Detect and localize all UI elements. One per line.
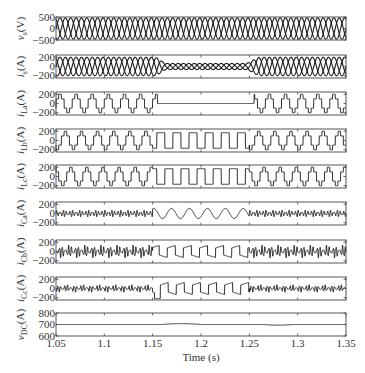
x-tick-label: 1.35 [336, 337, 356, 349]
y-tick-label: 200 [39, 198, 56, 210]
panel-is: −2000200is(A) [14, 51, 346, 81]
y-tick-label: 700 [39, 318, 56, 330]
panel-iLb: −2000200iLb(A) [14, 125, 346, 155]
panel-iCb: −2000200iCb(A) [14, 236, 346, 266]
y-tick-label: 800 [39, 307, 56, 319]
y-axis-label-vs: vs(V) [14, 17, 29, 41]
panel-iCc: −2000200iCc(A) [14, 273, 346, 303]
x-tick-label: 1.3 [291, 337, 305, 349]
y-axis-label-iCa: iCa(A) [14, 200, 29, 228]
y-axis-label-iCb: iCb(A) [14, 237, 29, 265]
x-tick-label: 1.25 [240, 337, 260, 349]
y-tick-label: 200 [39, 161, 56, 173]
y-tick-label: −500 [32, 34, 55, 46]
x-tick-label: 1.15 [143, 337, 163, 349]
y-tick-label: 200 [39, 51, 56, 63]
series-iCc-0 [56, 283, 346, 299]
y-tick-label: 500 [39, 11, 56, 23]
y-tick-label: 200 [39, 125, 56, 137]
y-axis-label-iCc: iCc(A) [14, 275, 29, 303]
series-iLc-0 [56, 167, 346, 185]
panels-group: −5000500vs(V)−2000200is(A)−2000200iLa(A)… [14, 11, 346, 342]
x-axis-label: Time (s) [182, 351, 220, 364]
series-iLb-0 [56, 131, 346, 149]
y-tick-label: 0 [50, 22, 56, 34]
x-tick-label: 1.2 [194, 337, 208, 349]
panel-iCa: −2000200iCa(A) [14, 198, 346, 228]
y-tick-label: 200 [39, 273, 56, 285]
y-axis-label-iLb: iLb(A) [14, 127, 29, 155]
series-vDC-0 [56, 324, 346, 326]
x-axis: 1.051.11.151.21.251.31.35 [46, 337, 356, 349]
y-axis-label-iLc: iLc(A) [14, 163, 29, 190]
panel-vs: −5000500vs(V) [14, 11, 346, 46]
panel-iLa: −2000200iLa(A) [14, 88, 346, 118]
y-tick-label: 200 [39, 236, 56, 248]
x-tick-label: 1.05 [46, 337, 66, 349]
series-iCa-0 [56, 208, 346, 218]
panel-iLc: −2000200iLc(A) [14, 161, 346, 191]
series-iLa-0 [56, 94, 346, 112]
y-axis-label-is: is(A) [14, 55, 29, 77]
x-tick-label: 1.1 [97, 337, 111, 349]
figure: −5000500vs(V)−2000200is(A)−2000200iLa(A)… [0, 0, 365, 373]
y-tick-label: 200 [39, 88, 56, 100]
y-axis-label-iLa: iLa(A) [14, 90, 29, 117]
y-axis-label-vDC: vDC(A) [14, 309, 29, 341]
series-iCb-0 [56, 245, 346, 258]
